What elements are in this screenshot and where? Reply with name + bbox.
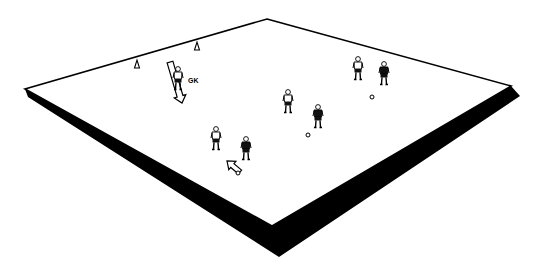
ball-icon <box>306 133 310 137</box>
goalkeeper-label: GK <box>188 77 199 84</box>
ball-icon <box>370 95 374 99</box>
drill-diagram: GK <box>0 0 541 268</box>
pitch-surface <box>25 19 511 226</box>
ball-icon <box>236 171 240 175</box>
